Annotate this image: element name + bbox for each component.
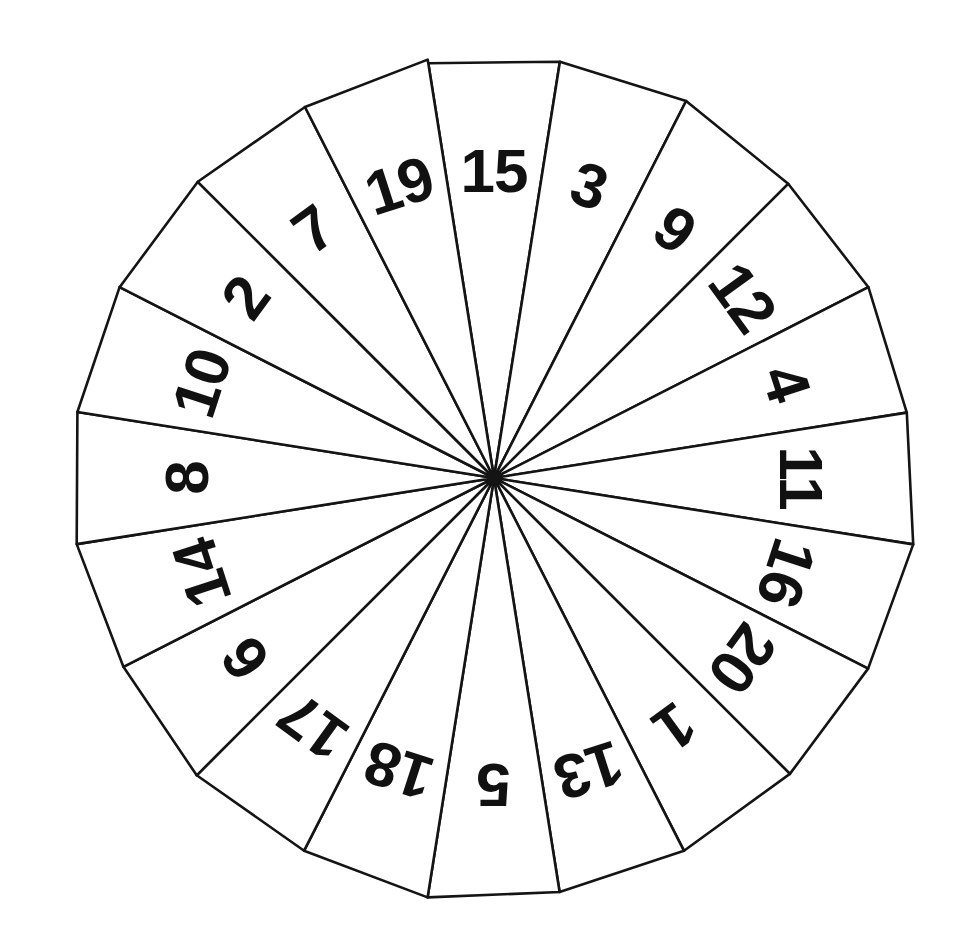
spinner-wheel-canvas: 1539124111620113518176148102719 xyxy=(0,0,975,952)
wheel-sector-label: 8 xyxy=(152,461,221,494)
spinner-wheel-figure: 1539124111620113518176148102719 xyxy=(0,0,975,952)
wheel-sector-label: 11 xyxy=(767,446,836,510)
wheel-sector-label: 5 xyxy=(477,751,510,820)
wheel-hub-icon xyxy=(487,471,501,485)
wheel-sector-label: 15 xyxy=(461,136,528,205)
